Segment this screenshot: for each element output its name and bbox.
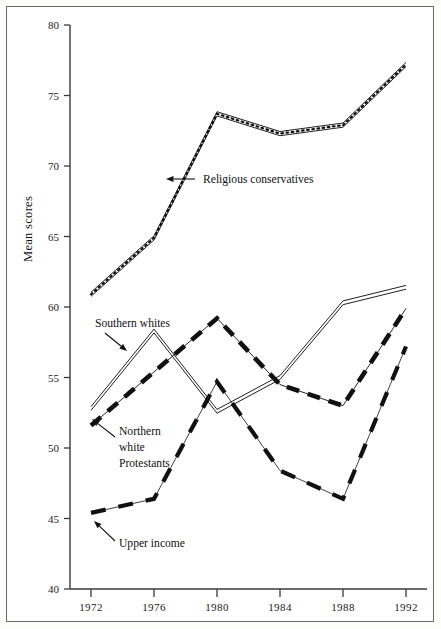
annotation-arrow-shaft <box>99 526 115 541</box>
y-tick-label: 40 <box>48 583 60 595</box>
annotation-label: Southern whites <box>95 317 171 330</box>
annotation-4: Upper income <box>94 521 185 550</box>
x-tick-label: 1976 <box>142 601 166 613</box>
y-axis-ticks: 404550556065707580 <box>48 19 70 595</box>
y-tick-label: 80 <box>48 19 60 31</box>
x-tick-label: 1988 <box>331 601 355 613</box>
chart-frame: Mean scores 404550556065707580 197219761… <box>6 6 434 622</box>
series-line-top <box>91 285 406 409</box>
annotation-label: Upper income <box>119 537 185 550</box>
y-tick-label: 75 <box>48 90 60 102</box>
y-tick-label: 55 <box>48 372 60 384</box>
y-tick-label: 60 <box>48 301 60 313</box>
y-tick-label: 70 <box>48 160 60 172</box>
annotation-arrow-shaft <box>98 424 115 437</box>
chart-plot-area: 404550556065707580 197219761980198419881… <box>7 7 435 623</box>
annotation-2: Southern whites <box>95 317 171 351</box>
annotation-label: Protestants <box>119 457 170 470</box>
x-tick-label: 1980 <box>205 601 229 613</box>
annotation-label: Religious conservatives <box>203 173 314 186</box>
y-tick-label: 65 <box>48 231 60 243</box>
x-tick-label: 1972 <box>79 601 103 613</box>
y-tick-label: 50 <box>48 442 60 454</box>
annotation-label: Northern <box>119 425 161 438</box>
annotation-arrow-shaft <box>105 333 121 346</box>
annotation-layer: Religious conservativesSouthern whitesNo… <box>92 173 314 550</box>
x-tick-label: 1992 <box>394 601 418 613</box>
annotation-label: white <box>119 441 145 454</box>
x-tick-label: 1984 <box>268 601 292 613</box>
annotation-1: Religious conservatives <box>166 173 314 186</box>
y-tick-label: 45 <box>48 513 60 525</box>
annotation-3: NorthernwhiteProtestants <box>92 419 170 470</box>
x-axis-ticks: 197219761980198419881992 <box>79 589 418 613</box>
annotation-arrow-head <box>166 176 174 182</box>
chart-screenshot: Mean scores 404550556065707580 197219761… <box>0 0 441 629</box>
